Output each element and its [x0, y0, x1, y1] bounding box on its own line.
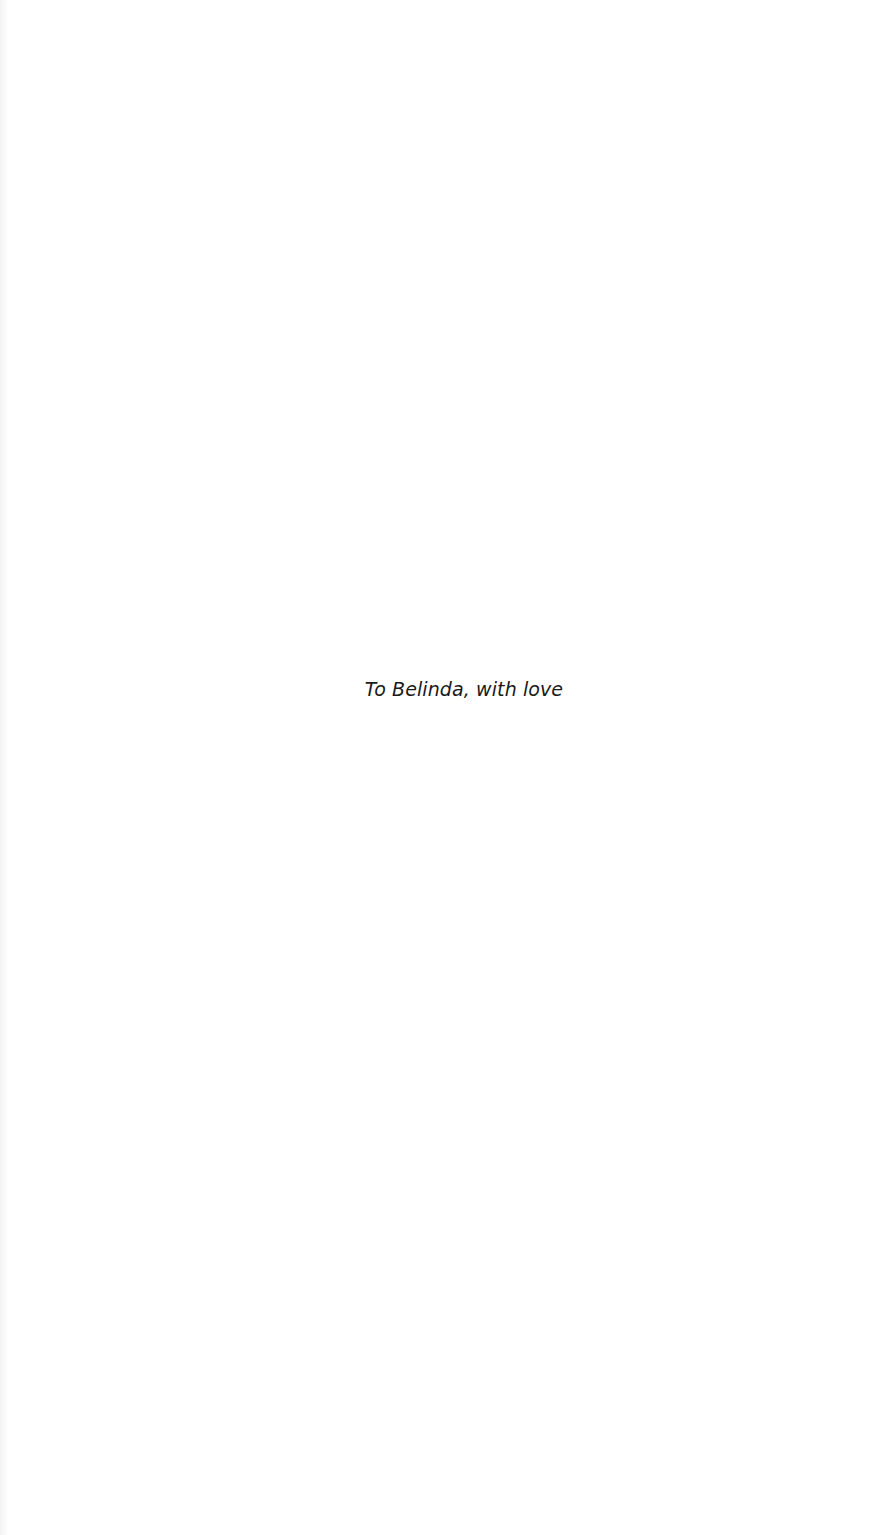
dedication-text: To Belinda, with love [0, 678, 888, 700]
book-page: To Belinda, with love [0, 0, 888, 1535]
page-edge-shadow [0, 0, 8, 1535]
